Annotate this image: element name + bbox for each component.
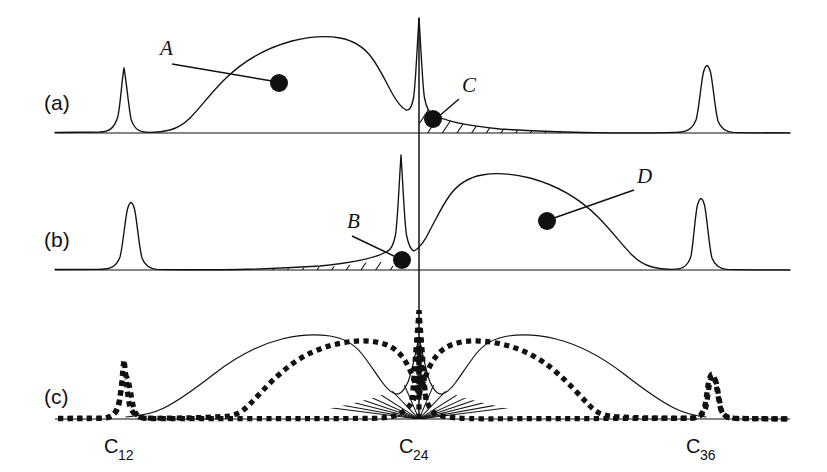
chromatogram-figure: (a) A (0, 0, 827, 472)
x-tick-c24-subscript: 24 (413, 447, 429, 463)
callout-dot-c (424, 110, 442, 128)
hatch-fill-region-c-right (419, 370, 592, 419)
hatch-fill-region-b (245, 230, 429, 338)
callout-leader-b (352, 236, 396, 257)
panel-label-b: (b) (44, 228, 70, 251)
trace-panel-b (55, 155, 790, 270)
callout-dot-a (270, 74, 288, 92)
x-tick-c24: C 24 (399, 435, 429, 463)
callout-label-d: D (636, 164, 652, 188)
x-tick-c36-base: C (686, 435, 700, 457)
hatch-fill-region-c (405, 85, 601, 197)
hatch-fill-region-c-left (246, 370, 419, 419)
panel-label-c: (c) (44, 385, 69, 408)
callout-c: C (424, 73, 477, 128)
x-axis-tick-labels: C 12 C 24 C 36 (104, 435, 716, 463)
panel-c: (c) (44, 310, 790, 419)
x-tick-c36: C 36 (686, 435, 716, 463)
callout-leader-c (438, 99, 459, 117)
callout-leader-a (172, 64, 272, 81)
callout-dot-b (393, 251, 411, 269)
callout-d: D (538, 164, 652, 230)
x-tick-c24-base: C (399, 435, 413, 457)
figure-root: (a) A (0, 0, 827, 472)
callout-b: B (347, 209, 411, 269)
callout-label-c: C (462, 73, 477, 97)
panel-label-a: (a) (44, 91, 70, 114)
panel-a: (a) A (44, 18, 790, 197)
x-tick-c12: C 12 (104, 435, 134, 463)
x-tick-c36-subscript: 36 (700, 447, 716, 463)
callout-a: A (158, 36, 288, 92)
callout-dot-d (538, 212, 556, 230)
callout-label-a: A (158, 36, 173, 60)
x-tick-c12-base: C (104, 435, 118, 457)
x-tick-c12-subscript: 12 (118, 447, 134, 463)
callout-label-b: B (347, 209, 360, 233)
